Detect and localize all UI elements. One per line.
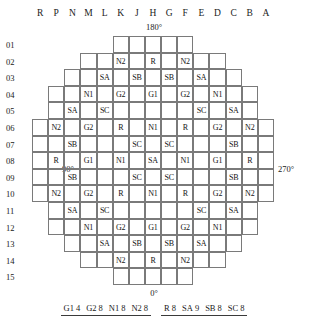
core-cell-D04[interactable]: N1 <box>209 86 225 103</box>
core-cell-F03[interactable] <box>177 69 193 86</box>
core-cell-L09[interactable] <box>97 169 113 186</box>
core-cell-K14[interactable]: N2 <box>113 252 129 269</box>
core-cell-R09[interactable] <box>32 169 48 186</box>
core-cell-L12[interactable] <box>97 219 113 236</box>
core-cell-N11[interactable]: SA <box>64 202 80 219</box>
core-cell-P06[interactable]: N2 <box>48 119 64 136</box>
core-cell-G13[interactable]: SB <box>161 235 177 252</box>
core-cell-H09[interactable] <box>145 169 161 186</box>
core-cell-J06[interactable] <box>129 119 145 136</box>
core-cell-D05[interactable] <box>209 102 225 119</box>
core-cell-F12[interactable]: G2 <box>177 219 193 236</box>
core-cell-L13[interactable]: SA <box>97 235 113 252</box>
core-cell-F14[interactable]: N2 <box>177 252 193 269</box>
core-cell-H05[interactable] <box>145 102 161 119</box>
core-cell-A08[interactable] <box>258 152 274 169</box>
core-cell-E03[interactable]: SA <box>193 69 209 86</box>
core-cell-F11[interactable] <box>177 202 193 219</box>
core-cell-C07[interactable]: SB <box>226 136 242 153</box>
core-cell-L14[interactable] <box>97 252 113 269</box>
core-cell-C11[interactable]: SA <box>226 202 242 219</box>
core-cell-L03[interactable]: SA <box>97 69 113 86</box>
core-cell-B05[interactable] <box>242 102 258 119</box>
core-cell-F07[interactable] <box>177 136 193 153</box>
core-cell-G05[interactable] <box>161 102 177 119</box>
core-cell-L10[interactable] <box>97 185 113 202</box>
core-cell-M14[interactable] <box>80 252 96 269</box>
core-cell-D02[interactable] <box>209 53 225 70</box>
core-cell-B06[interactable]: N2 <box>242 119 258 136</box>
core-cell-J10[interactable] <box>129 185 145 202</box>
core-cell-H13[interactable] <box>145 235 161 252</box>
core-cell-A10[interactable] <box>258 185 274 202</box>
core-cell-G09[interactable]: SC <box>161 169 177 186</box>
core-cell-J01[interactable] <box>129 36 145 53</box>
core-cell-H08[interactable]: SA <box>145 152 161 169</box>
core-cell-E04[interactable] <box>193 86 209 103</box>
core-cell-K05[interactable] <box>113 102 129 119</box>
core-cell-G07[interactable]: SC <box>161 136 177 153</box>
core-cell-L05[interactable]: SC <box>97 102 113 119</box>
core-cell-D06[interactable]: G2 <box>209 119 225 136</box>
core-cell-P12[interactable] <box>48 219 64 236</box>
core-cell-R08[interactable] <box>32 152 48 169</box>
core-cell-H10[interactable]: N1 <box>145 185 161 202</box>
core-cell-E11[interactable]: SC <box>193 202 209 219</box>
core-cell-G04[interactable] <box>161 86 177 103</box>
core-cell-K07[interactable] <box>113 136 129 153</box>
core-cell-R06[interactable] <box>32 119 48 136</box>
core-cell-C08[interactable] <box>226 152 242 169</box>
core-cell-J04[interactable] <box>129 86 145 103</box>
core-cell-N05[interactable]: SA <box>64 102 80 119</box>
core-cell-L06[interactable] <box>97 119 113 136</box>
core-cell-D09[interactable] <box>209 169 225 186</box>
core-cell-H11[interactable] <box>145 202 161 219</box>
core-cell-F09[interactable] <box>177 169 193 186</box>
core-cell-J15[interactable] <box>129 268 145 285</box>
core-cell-P04[interactable] <box>48 86 64 103</box>
core-cell-D13[interactable] <box>209 235 225 252</box>
core-cell-H14[interactable]: R <box>145 252 161 269</box>
core-cell-F04[interactable]: G2 <box>177 86 193 103</box>
core-cell-P09[interactable] <box>48 169 64 186</box>
core-cell-J13[interactable]: SB <box>129 235 145 252</box>
core-cell-P11[interactable] <box>48 202 64 219</box>
core-cell-N13[interactable] <box>64 235 80 252</box>
core-cell-A07[interactable] <box>258 136 274 153</box>
core-cell-E05[interactable]: SC <box>193 102 209 119</box>
core-cell-G11[interactable] <box>161 202 177 219</box>
core-cell-E12[interactable] <box>193 219 209 236</box>
core-cell-M10[interactable]: G2 <box>80 185 96 202</box>
core-cell-L07[interactable] <box>97 136 113 153</box>
core-cell-F05[interactable] <box>177 102 193 119</box>
core-cell-F02[interactable]: N2 <box>177 53 193 70</box>
core-cell-M04[interactable]: N1 <box>80 86 96 103</box>
core-cell-R07[interactable] <box>32 136 48 153</box>
core-cell-J14[interactable] <box>129 252 145 269</box>
core-cell-K01[interactable] <box>113 36 129 53</box>
core-cell-J11[interactable] <box>129 202 145 219</box>
core-cell-N04[interactable] <box>64 86 80 103</box>
core-cell-E13[interactable]: SA <box>193 235 209 252</box>
core-cell-B09[interactable] <box>242 169 258 186</box>
core-cell-C06[interactable] <box>226 119 242 136</box>
core-cell-P08[interactable]: R <box>48 152 64 169</box>
core-cell-C03[interactable] <box>226 69 242 86</box>
core-cell-K06[interactable]: R <box>113 119 129 136</box>
core-cell-L04[interactable] <box>97 86 113 103</box>
core-cell-D03[interactable] <box>209 69 225 86</box>
core-cell-N03[interactable] <box>64 69 80 86</box>
core-cell-G08[interactable] <box>161 152 177 169</box>
core-cell-B08[interactable]: R <box>242 152 258 169</box>
core-cell-N07[interactable]: SB <box>64 136 80 153</box>
core-cell-K04[interactable]: G2 <box>113 86 129 103</box>
core-cell-M08[interactable]: G1 <box>80 152 96 169</box>
core-cell-E08[interactable] <box>193 152 209 169</box>
core-cell-G03[interactable]: SB <box>161 69 177 86</box>
core-cell-P10[interactable]: N2 <box>48 185 64 202</box>
core-cell-M09[interactable] <box>80 169 96 186</box>
core-cell-E02[interactable] <box>193 53 209 70</box>
core-cell-J08[interactable] <box>129 152 145 169</box>
core-cell-M02[interactable] <box>80 53 96 70</box>
core-cell-D07[interactable] <box>209 136 225 153</box>
